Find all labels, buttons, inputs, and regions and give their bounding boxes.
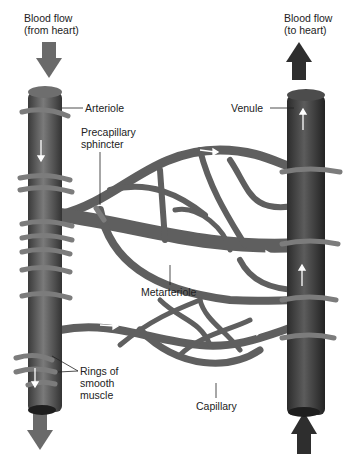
flow-in-arrow-icon [36, 42, 62, 78]
label-venule: Venule [231, 102, 263, 114]
venule [287, 89, 325, 417]
flow-down-arrow-icon [27, 412, 53, 450]
label-arteriole: Arteriole [85, 102, 124, 114]
flow-up-arrow-icon [291, 412, 317, 454]
label-metarteriole: Metarteriole [141, 286, 196, 298]
capillary-bed-diagram [0, 0, 350, 462]
label-rings-smooth-muscle: Rings of smooth muscle [80, 365, 119, 401]
label-capillary: Capillary [196, 400, 237, 412]
label-precapillary-sphincter: Precapillary sphincter [81, 126, 136, 150]
label-flow-to-heart: Blood flow (to heart) [284, 12, 332, 36]
label-flow-from-heart: Blood flow (from heart) [24, 12, 79, 36]
flow-out-arrow-icon [286, 42, 312, 80]
